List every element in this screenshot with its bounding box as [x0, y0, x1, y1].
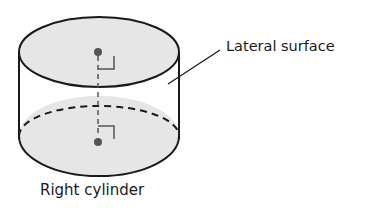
diagram-caption: Right cylinder [40, 181, 144, 199]
right-cylinder-diagram: Lateral surface Right cylinder [0, 0, 388, 208]
bottom-center-dot [94, 138, 102, 146]
cylinder-figure [0, 0, 388, 208]
top-center-dot [94, 48, 102, 56]
lateral-surface-label: Lateral surface [226, 38, 335, 54]
